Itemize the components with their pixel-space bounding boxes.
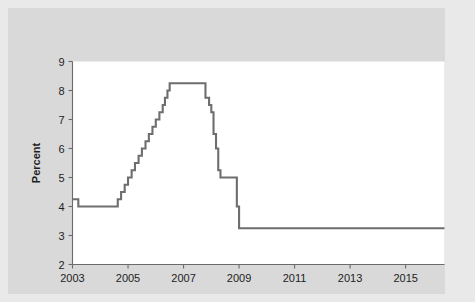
chart-figure: 23456789 2003200520072009201120132015 Pe… bbox=[0, 0, 475, 302]
y-tick-label: 4 bbox=[58, 201, 64, 213]
x-axis-ticks: 2003200520072009201120132015 bbox=[60, 265, 418, 284]
y-tick-label: 9 bbox=[58, 56, 64, 68]
x-tick-label: 2015 bbox=[393, 272, 417, 284]
y-axis-title: Percent bbox=[30, 142, 42, 183]
y-tick-label: 8 bbox=[58, 85, 64, 97]
x-tick-label: 2005 bbox=[116, 272, 140, 284]
y-tick-label: 5 bbox=[58, 172, 64, 184]
plot-background bbox=[73, 62, 445, 265]
y-tick-label: 2 bbox=[58, 259, 64, 271]
x-tick-label: 2003 bbox=[60, 272, 84, 284]
y-tick-label: 6 bbox=[58, 143, 64, 155]
x-tick-label: 2013 bbox=[338, 272, 362, 284]
x-tick-label: 2011 bbox=[283, 272, 307, 284]
y-tick-label: 7 bbox=[58, 114, 64, 126]
y-axis-ticks: 23456789 bbox=[58, 56, 72, 271]
x-tick-label: 2007 bbox=[171, 272, 195, 284]
y-tick-label: 3 bbox=[58, 230, 64, 242]
x-tick-label: 2009 bbox=[227, 272, 251, 284]
line-chart: 23456789 2003200520072009201120132015 Pe… bbox=[0, 0, 475, 302]
plot-container: 23456789 2003200520072009201120132015 Pe… bbox=[0, 0, 475, 302]
